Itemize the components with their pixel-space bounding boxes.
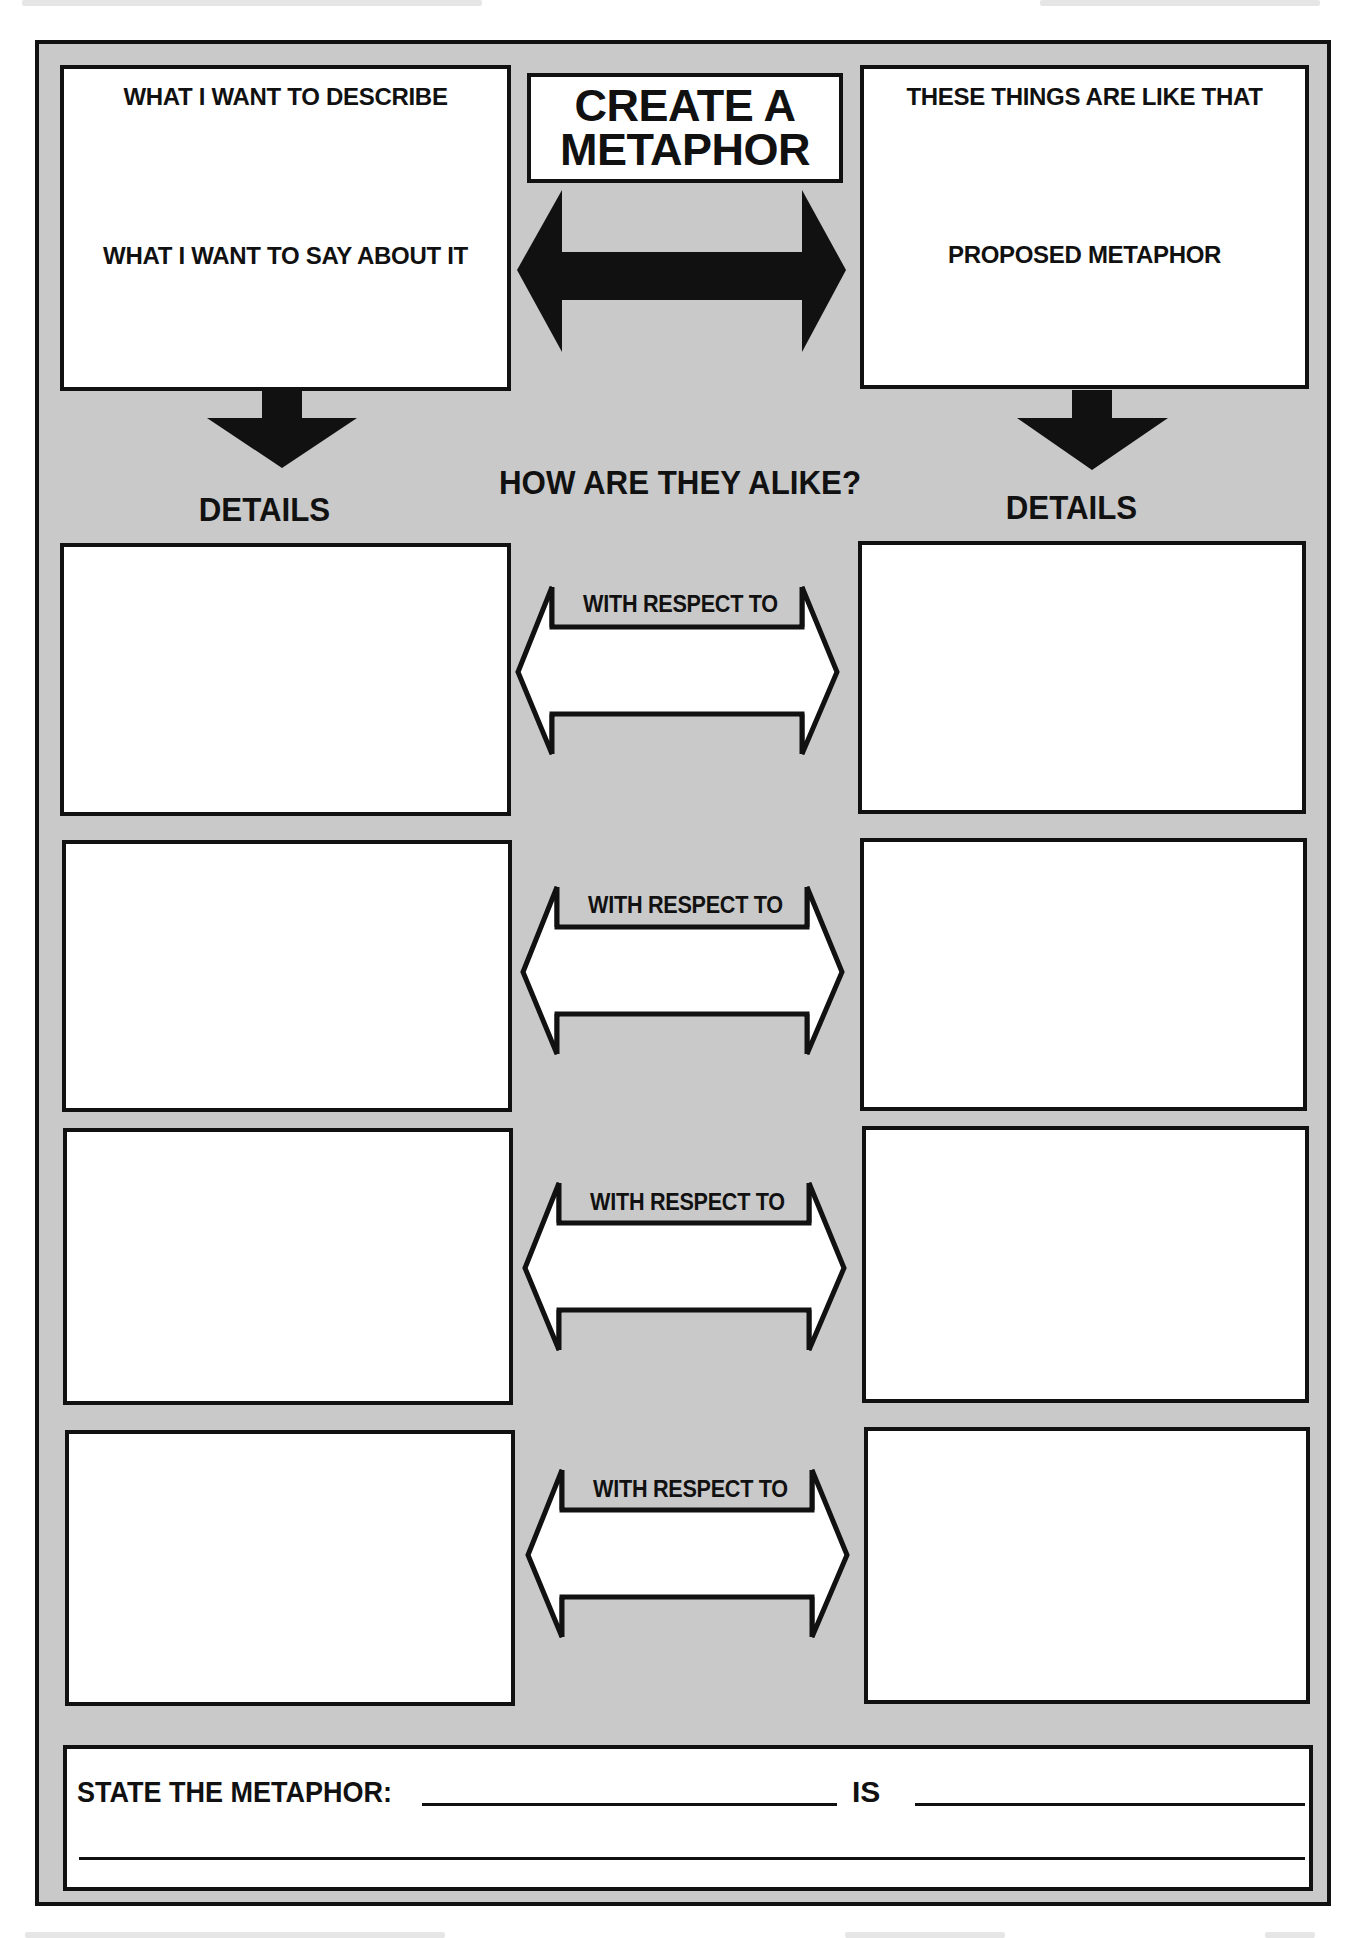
with-respect-to-label-3: WITH RESPECT TO [541,1188,834,1216]
page-title: CREATE A METAPHOR [527,73,843,183]
is-label: IS [852,1775,880,1809]
with-respect-to-label-1: WITH RESPECT TO [534,590,827,618]
right-detail-box-4[interactable] [864,1427,1310,1704]
proposed-metaphor-heading: PROPOSED METAPHOR [864,241,1305,269]
with-respect-to-label-4: WITH RESPECT TO [544,1475,837,1503]
right-detail-box-2[interactable] [860,838,1307,1111]
double-arrow-icon [515,190,845,360]
with-respect-to-label-2: WITH RESPECT TO [539,891,832,919]
right-detail-box-1[interactable] [858,541,1306,814]
metaphor-object-blank[interactable] [915,1803,1305,1806]
title-line-2: METAPHOR [560,128,810,172]
page-header-fragment [22,0,482,6]
page-footer-fragment [25,1932,445,1938]
like-that-heading: THESE THINGS ARE LIKE THAT [864,83,1305,111]
state-metaphor-label: STATE THE METAPHOR: [77,1775,392,1809]
metaphor-explanation-blank[interactable] [79,1857,1305,1860]
metaphor-box[interactable]: THESE THINGS ARE LIKE THAT PROPOSED META… [860,65,1309,389]
details-heading-left: DETAILS [199,490,331,529]
right-detail-box-3[interactable] [862,1126,1309,1403]
title-line-1: CREATE A [575,84,796,128]
down-arrow-left-icon [205,390,360,468]
page-header-fragment-right [1040,0,1320,6]
describe-box[interactable]: WHAT I WANT TO DESCRIBE WHAT I WANT TO S… [60,65,511,391]
down-arrow-right-icon [1015,390,1170,470]
how-alike-heading: HOW ARE THEY ALIKE? [487,463,873,502]
say-about-heading: WHAT I WANT TO SAY ABOUT IT [64,242,507,270]
left-detail-box-1[interactable] [60,543,511,816]
left-detail-box-4[interactable] [65,1430,515,1706]
metaphor-subject-blank[interactable] [422,1803,837,1806]
left-detail-box-2[interactable] [62,840,512,1112]
left-detail-box-3[interactable] [63,1128,513,1405]
details-heading-right: DETAILS [1006,488,1138,527]
page-number-fragment [1265,1932,1315,1938]
page-footer-fragment-right [845,1932,1005,1938]
describe-heading: WHAT I WANT TO DESCRIBE [64,83,507,111]
state-metaphor-box: STATE THE METAPHOR: IS [63,1745,1313,1891]
